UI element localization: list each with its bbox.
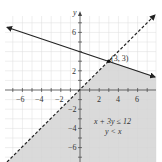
x-tick-label: 2 bbox=[97, 95, 101, 104]
y-axis-arrow-icon bbox=[78, 11, 82, 16]
inequality-label-1: x + 3y ≤ 12 bbox=[93, 117, 131, 126]
x-tick-label: 4 bbox=[116, 95, 120, 104]
y-tick-label: 6 bbox=[72, 28, 76, 37]
x-tick-label: 6 bbox=[135, 95, 139, 104]
x-tick-label: −6 bbox=[16, 95, 25, 104]
boundary-line-x-plus-3y-eq-12 bbox=[7, 27, 155, 77]
y-tick-label: −4 bbox=[68, 124, 77, 133]
y-tick-label: −2 bbox=[68, 105, 77, 114]
intersection-label: (3, 3) bbox=[111, 54, 129, 63]
y-tick-label: 2 bbox=[72, 67, 76, 76]
y-tick-label: −6 bbox=[68, 143, 77, 152]
x-tick-label: −4 bbox=[35, 95, 44, 104]
inequality-graph: y (3, 3) −6 −4 −2 2 4 6 6 2 −2 −4 −6 x +… bbox=[0, 0, 162, 162]
solution-region bbox=[7, 61, 156, 162]
x-tick-label: −2 bbox=[55, 95, 64, 104]
inequality-label-2: y < x bbox=[104, 127, 122, 136]
y-axis-label: y bbox=[72, 8, 77, 17]
